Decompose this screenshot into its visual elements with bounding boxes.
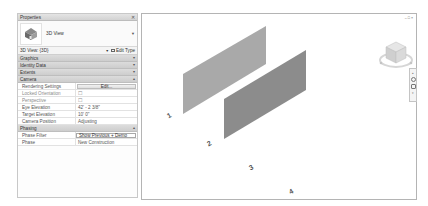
prop-key: Locked Orientation: [18, 90, 76, 96]
group-graphics[interactable]: Graphics ▾: [18, 55, 137, 62]
close-icon[interactable]: ✕: [131, 15, 135, 20]
group-label: Graphics: [20, 56, 38, 61]
edit-type-button[interactable]: Edit Type: [111, 48, 135, 53]
row-phase: Phase New Construction: [18, 139, 137, 146]
row-locked-orientation: Locked Orientation ☐: [18, 90, 137, 97]
expand-icon: ▾: [133, 56, 135, 60]
steering-wheel-icon[interactable]: [411, 77, 416, 82]
view-instance-select[interactable]: 3D View: {3D}: [20, 48, 49, 53]
3d-viewport[interactable]: – □ × 1 2 3 4 ▴ ▾: [141, 13, 417, 200]
viewcube[interactable]: [380, 42, 413, 67]
camera-position-value: Adjusting: [76, 118, 137, 124]
collapse-icon: ▴: [133, 77, 135, 81]
chevron-down-icon[interactable]: ▼: [131, 31, 137, 36]
group-phasing[interactable]: Phasing ▴: [18, 125, 137, 132]
prop-key: Perspective: [18, 97, 76, 103]
edit-type-label: Edit Type: [116, 48, 135, 53]
group-identity-data[interactable]: Identity Data ▾: [18, 62, 137, 69]
locked-orientation-checkbox[interactable]: ☐: [76, 90, 137, 96]
row-phase-filter: Phase Filter Show Previous + Demo: [18, 132, 137, 139]
prop-key: Camera Position: [18, 118, 76, 124]
group-label: Identity Data: [20, 63, 46, 68]
collapse-icon: ▴: [133, 126, 135, 130]
phase-filter-select[interactable]: Show Previous + Demo: [76, 133, 136, 138]
view-instance-row: 3D View: {3D} ▼ Edit Type: [18, 47, 137, 55]
3d-view-house-icon: [20, 23, 42, 45]
properties-palette: Properties ✕ 3D View ▼ 3D View: {3D} ▼ E…: [17, 13, 138, 198]
group-label: Camera: [20, 77, 36, 82]
zoom-icon[interactable]: [411, 84, 416, 89]
row-camera-position: Camera Position Adjusting: [18, 118, 137, 125]
expand-icon: ▾: [133, 70, 135, 74]
properties-title: Properties: [20, 15, 41, 20]
navbar-menu-icon[interactable]: ▴: [412, 71, 414, 75]
prop-key: Target Elevation: [18, 111, 76, 117]
row-target-elevation: Target Elevation 10' 0": [18, 111, 137, 118]
edit-type-icon: [111, 49, 115, 52]
rendering-settings-edit-button[interactable]: Edit...: [77, 84, 136, 89]
row-rendering-settings: Rendering Settings Edit...: [18, 83, 137, 90]
view-dropdown-chevron-icon[interactable]: ▼: [105, 49, 108, 53]
prop-key: Phase: [18, 139, 76, 145]
type-name: 3D View: [42, 31, 131, 36]
group-extents[interactable]: Extents ▾: [18, 69, 137, 76]
prop-key: Phase Filter: [18, 132, 76, 138]
target-elevation-field[interactable]: 10' 0": [76, 111, 137, 117]
prop-key: Eye Elevation: [18, 104, 76, 110]
properties-title-bar[interactable]: Properties ✕: [18, 14, 137, 21]
type-selector[interactable]: 3D View ▼: [18, 21, 137, 47]
row-perspective: Perspective ☐: [18, 97, 137, 104]
group-label: Extents: [20, 70, 35, 75]
group-label: Phasing: [20, 126, 37, 131]
navigation-bar: ▴ ▾: [409, 68, 417, 102]
model-scene[interactable]: [142, 14, 418, 201]
prop-key: Rendering Settings: [18, 83, 76, 89]
expand-icon: ▾: [133, 63, 135, 67]
chevron-down-icon[interactable]: ▾: [412, 91, 414, 95]
group-camera[interactable]: Camera ▴: [18, 76, 137, 83]
perspective-checkbox[interactable]: ☐: [76, 97, 137, 103]
eye-elevation-field[interactable]: 42' - 2 3/8": [76, 104, 137, 110]
phase-select[interactable]: New Construction: [76, 139, 137, 145]
row-eye-elevation: Eye Elevation 42' - 2 3/8": [18, 104, 137, 111]
